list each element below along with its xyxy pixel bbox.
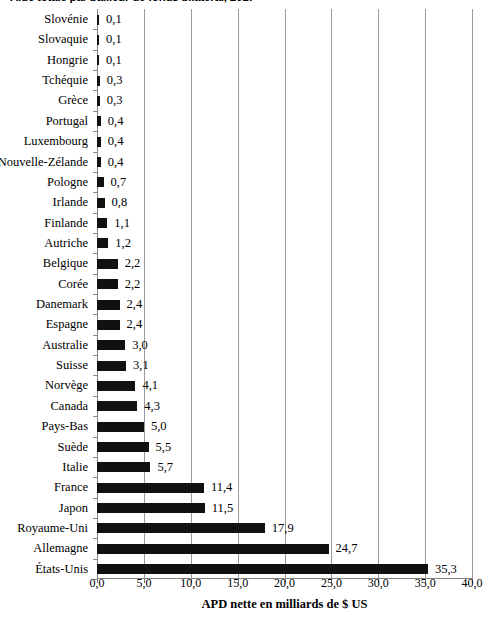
category-label: Pologne [47,173,88,191]
bar-value-label: 0,1 [106,51,122,69]
x-tick-label: 15,0 [218,576,258,591]
bar-value-label: 17,9 [272,519,294,537]
x-axis-title: APD nette en milliards de $ US [97,597,472,612]
category-label: Italie [62,458,88,476]
category-label: Tchéquie [42,71,88,89]
bar-value-label: 0,3 [107,71,123,89]
bar [97,15,99,25]
chart-container: Aide totale par bailleur de fonds bilaté… [0,0,491,618]
bar-value-label: 3,0 [132,336,148,354]
category-label: Corée [58,275,88,293]
category-label: Norvège [45,376,88,394]
bar-row: Finlande1,1 [97,213,472,233]
bar [97,238,108,248]
category-label: Suisse [56,356,88,374]
category-label: Finlande [44,214,88,232]
category-label: Allemagne [33,539,88,557]
category-label: Royaume-Uni [17,519,88,537]
bar-row: Canada4,3 [97,396,472,416]
bar [97,483,204,493]
category-label: Nouvelle-Zélande [0,153,88,171]
bar [97,259,118,269]
bar-value-label: 4,1 [142,376,158,394]
bar [97,157,101,167]
bar-value-label: 2,4 [127,295,143,313]
bar-row: Norvège4,1 [97,375,472,395]
bar-value-label: 5,0 [151,417,167,435]
category-label: Slovaquie [38,30,88,48]
bar-value-label: 11,4 [211,478,232,496]
bar [97,177,104,187]
bar-row: Irlande0,8 [97,192,472,212]
bar [97,503,205,513]
category-label: Luxembourg [24,132,88,150]
bar-row: Grèce0,3 [97,90,472,110]
category-label: Pays-Bas [41,417,88,435]
bar-row: Italie5,7 [97,457,472,477]
bar-value-label: 0,4 [108,153,124,171]
category-label: Japon [59,499,88,517]
bar-value-label: 0,3 [107,91,123,109]
bar-row: Japon11,5 [97,498,472,518]
bar-row: Luxembourg0,4 [97,131,472,151]
bar-row: Australie3,0 [97,335,472,355]
bar-row: Portugal0,4 [97,111,472,131]
bar-row: Corée2,2 [97,274,472,294]
x-tick-label: 40,0 [452,576,491,591]
bar-row: Espagne2,4 [97,314,472,334]
bar-value-label: 0,1 [106,30,122,48]
bar [97,76,100,86]
bar-value-label: 4,3 [144,397,160,415]
category-label: Portugal [46,112,88,130]
category-label: Suède [57,438,88,456]
bar-row: Suisse3,1 [97,355,472,375]
bar-row: Slovénie0,1 [97,9,472,29]
x-tick-label: 10,0 [171,576,211,591]
category-label: Irlande [53,193,88,211]
bar-row: Danemark2,4 [97,294,472,314]
bar [97,361,126,371]
bar [97,96,100,106]
bar [97,544,329,554]
bar [97,462,150,472]
bar-value-label: 0,1 [106,10,122,28]
bar-value-label: 5,5 [156,438,172,456]
chart-title: Aide totale par bailleur de fonds bilaté… [10,0,480,4]
bar-value-label: 1,1 [114,214,130,232]
bar-row: Autriche1,2 [97,233,472,253]
bar-value-label: 3,1 [133,356,149,374]
category-label: Autriche [44,234,88,252]
bar [97,381,135,391]
bar [97,279,118,289]
category-label: Australie [42,336,88,354]
bar [97,422,144,432]
x-tick-label: 20,0 [265,576,305,591]
bar-row: France11,4 [97,477,472,497]
bar-value-label: 2,2 [125,254,141,272]
bar [97,300,120,310]
bar [97,55,99,65]
bar [97,523,265,533]
category-label: Canada [51,397,88,415]
bar [97,564,428,574]
bar-value-label: 2,4 [127,315,143,333]
bar-row: Allemagne24,7 [97,538,472,558]
bar [97,137,101,147]
bar-row: Royaume-Uni17,9 [97,518,472,538]
bar [97,198,105,208]
bar-row: Tchéquie0,3 [97,70,472,90]
bar-row: Belgique2,2 [97,253,472,273]
gridline [472,9,473,579]
bar-value-label: 11,5 [212,499,233,517]
category-label: Grèce [58,91,88,109]
bar-row: Pologne0,7 [97,172,472,192]
bar [97,442,149,452]
bar [97,116,101,126]
category-label: Hongrie [47,51,88,69]
bar-value-label: 24,7 [336,539,358,557]
category-label: Danemark [36,295,88,313]
bar-value-label: 0,8 [112,193,128,211]
category-label: Espagne [46,315,88,333]
x-tick-label: 5,0 [124,576,164,591]
bar-value-label: 1,2 [115,234,131,252]
